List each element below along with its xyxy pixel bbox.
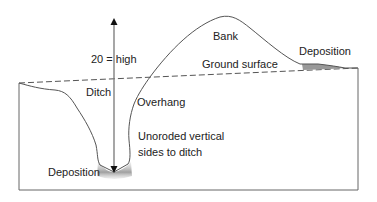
bank-label: Bank [213,30,238,43]
ditch-label: Ditch [86,86,111,99]
deposition-right-label: Deposition [299,45,351,58]
ground-surface-line [19,68,358,83]
ground-surface-label: Ground surface [202,58,278,71]
overhang-label: Overhang [137,96,185,109]
unoroded-label-line2: sides to ditch [138,146,202,159]
deposition-bottom-label: Deposition [48,166,100,179]
height-label: 20 = high [91,53,137,66]
unoroded-label-line1: Unoroded vertical [138,130,224,143]
height-arrow [111,18,118,173]
